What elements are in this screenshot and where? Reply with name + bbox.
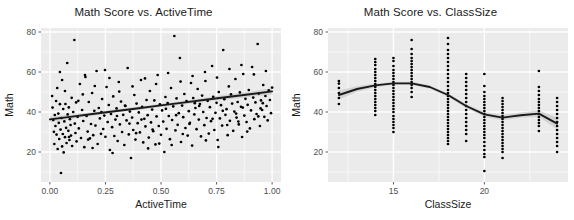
data-point xyxy=(156,74,159,77)
data-point xyxy=(139,131,142,134)
data-point xyxy=(90,123,93,126)
data-point xyxy=(410,57,413,60)
data-point xyxy=(202,111,205,114)
data-point xyxy=(263,115,266,118)
data-point xyxy=(392,121,395,124)
data-point xyxy=(232,129,235,132)
data-point xyxy=(501,100,504,103)
data-point xyxy=(55,100,58,103)
data-point xyxy=(538,130,541,133)
data-point xyxy=(338,103,341,106)
data-point xyxy=(154,143,157,146)
data-point xyxy=(59,128,62,131)
scatter-plot-classsize: 204060801520ClassSizeMath xyxy=(287,0,574,220)
data-point xyxy=(235,112,238,115)
data-point xyxy=(149,90,152,93)
data-point xyxy=(171,119,174,122)
data-point xyxy=(162,120,165,123)
data-point xyxy=(191,75,194,78)
data-point xyxy=(69,124,72,127)
data-point xyxy=(86,130,89,133)
figure-root: Math Score vs. ActiveTime 204060800.000.… xyxy=(0,0,574,220)
data-point xyxy=(140,118,143,121)
data-point xyxy=(192,97,195,100)
axis-tick-label-y: 20 xyxy=(27,147,37,157)
data-point xyxy=(165,107,168,110)
axis-tick-label-x: 1.00 xyxy=(264,186,281,196)
data-point xyxy=(151,128,154,131)
data-point xyxy=(259,125,262,128)
data-point xyxy=(374,110,377,113)
data-point xyxy=(118,90,121,93)
data-point xyxy=(465,113,468,116)
data-point xyxy=(338,97,341,100)
data-point xyxy=(103,114,106,117)
data-point xyxy=(195,128,198,131)
data-point xyxy=(271,86,274,89)
data-point xyxy=(61,133,64,136)
data-point xyxy=(60,172,63,175)
data-point xyxy=(447,140,450,143)
data-point xyxy=(170,87,173,90)
data-point xyxy=(94,124,97,127)
data-point xyxy=(447,131,450,134)
data-point xyxy=(243,114,246,117)
scatter-plot-activetime: 204060800.000.250.500.751.00ActiveTimeMa… xyxy=(0,0,287,220)
data-point xyxy=(392,131,395,134)
data-point xyxy=(265,70,268,73)
data-point xyxy=(200,135,203,138)
data-point xyxy=(269,99,272,102)
axis-x: 1520 xyxy=(389,182,490,196)
data-point xyxy=(465,140,468,143)
data-point xyxy=(135,102,138,105)
data-point xyxy=(116,115,119,118)
data-point xyxy=(234,78,237,81)
data-point xyxy=(147,136,150,139)
data-point xyxy=(126,67,129,70)
axis-title-y: Math xyxy=(3,93,15,117)
data-point xyxy=(216,76,219,79)
data-point xyxy=(193,113,196,116)
data-point xyxy=(61,79,64,82)
data-point xyxy=(374,74,377,77)
data-point xyxy=(483,91,486,94)
data-point xyxy=(392,75,395,78)
data-point xyxy=(53,114,56,117)
data-point xyxy=(221,124,224,127)
data-point xyxy=(150,121,153,124)
data-point xyxy=(120,100,123,103)
data-point xyxy=(538,122,541,125)
data-point xyxy=(410,63,413,66)
data-point xyxy=(465,121,468,124)
data-point xyxy=(242,73,245,76)
data-point xyxy=(73,122,76,125)
data-point xyxy=(179,57,182,60)
data-point xyxy=(211,65,214,68)
data-point xyxy=(87,138,90,141)
data-point xyxy=(266,119,269,122)
data-point xyxy=(228,68,231,71)
data-point xyxy=(447,119,450,122)
data-point xyxy=(253,118,256,121)
data-point xyxy=(174,129,177,132)
data-point xyxy=(538,119,541,122)
data-point xyxy=(144,125,147,128)
data-point xyxy=(177,112,180,115)
data-point xyxy=(538,70,541,73)
data-point xyxy=(392,78,395,81)
data-point xyxy=(64,103,67,106)
data-point xyxy=(164,96,167,99)
data-point xyxy=(483,134,486,137)
data-point xyxy=(219,117,222,120)
data-point xyxy=(374,98,377,101)
data-point xyxy=(483,128,486,131)
data-point xyxy=(447,116,450,119)
data-point xyxy=(410,48,413,51)
data-point xyxy=(109,149,112,152)
data-point xyxy=(204,71,207,74)
data-point xyxy=(251,66,254,69)
data-point xyxy=(270,112,273,115)
axis-tick-label-y: 40 xyxy=(27,107,37,117)
data-point xyxy=(213,129,216,132)
data-point xyxy=(447,89,450,92)
